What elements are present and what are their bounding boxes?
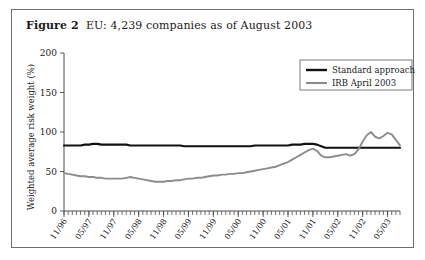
x-tick-label: 11/98 xyxy=(148,217,169,241)
y-tick-label: 200 xyxy=(40,48,57,58)
x-tick-label: 11/02 xyxy=(347,217,368,241)
y-tick-label: 150 xyxy=(40,88,57,98)
chart-series-group xyxy=(64,132,400,182)
y-tick-label: 0 xyxy=(51,206,57,216)
series-line-standard-approach xyxy=(64,144,400,148)
x-tick-label: 05/98 xyxy=(123,217,144,241)
chart-plot-area: Weighted average risk weight (%) 0501001… xyxy=(12,10,415,249)
y-axis-ticks: 050100150200 xyxy=(40,48,64,216)
x-tick-label: 05/02 xyxy=(322,217,343,241)
x-tick-label: 05/97 xyxy=(73,217,94,241)
y-axis-title: Weighted average risk weight (%) xyxy=(26,64,36,210)
x-tick-label: 11/01 xyxy=(297,217,318,241)
x-tick-label: 11/00 xyxy=(248,217,269,241)
chart-legend: Standard approachIRB April 2003 xyxy=(300,60,415,90)
x-tick-label: 11/99 xyxy=(198,217,219,241)
y-axis-title-label: Weighted average risk weight (%) xyxy=(26,64,36,210)
legend-label-irb-april-2003: IRB April 2003 xyxy=(332,78,396,88)
x-axis-minor-ticks xyxy=(64,211,400,215)
x-axis-major-ticks: 11/9605/9711/9705/9811/9805/9911/9905/00… xyxy=(49,211,393,241)
x-tick-label: 05/03 xyxy=(372,217,393,241)
figure-frame: Figure 2 EU: 4,239 companies as of Augus… xyxy=(11,9,414,248)
y-tick-label: 100 xyxy=(40,127,57,137)
y-tick-label: 50 xyxy=(46,167,58,177)
x-tick-label: 05/99 xyxy=(173,217,194,241)
x-tick-label: 05/00 xyxy=(223,217,244,241)
x-tick-label: 11/97 xyxy=(98,217,119,241)
legend-label-standard-approach: Standard approach xyxy=(332,65,415,75)
x-tick-label: 05/01 xyxy=(273,217,294,241)
x-tick-label: 11/96 xyxy=(49,217,70,241)
series-line-irb-april-2003 xyxy=(64,132,400,182)
line-chart: Weighted average risk weight (%) 0501001… xyxy=(12,10,415,249)
